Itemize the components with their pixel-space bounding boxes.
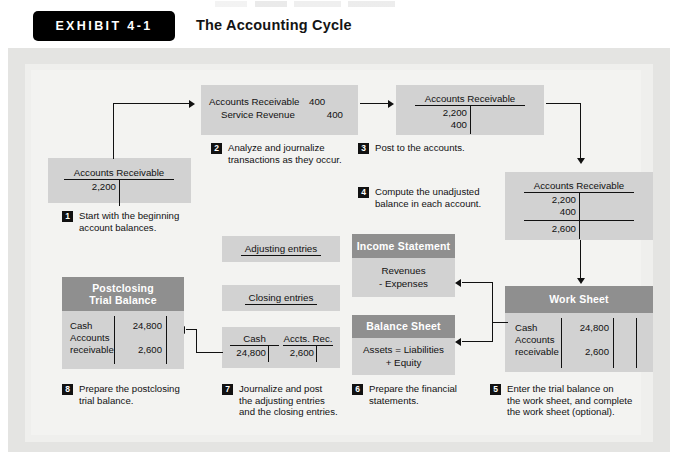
journal-debit-amount: 400 [309, 96, 343, 109]
connector-5-to-6-vertical [492, 282, 493, 342]
t-account-title: Accounts Receivable [524, 180, 634, 193]
work-sheet-row-1-name: Cash [515, 322, 537, 334]
t-account-title: Accounts Receivable [415, 93, 525, 106]
step-1: 1 Start with the beginning account balan… [62, 210, 222, 233]
t-account-title: Accts. Rec. [283, 333, 333, 346]
step-8-number: 8 [62, 384, 73, 395]
closing-entries-box: Closing entries [222, 285, 340, 311]
step-6-caption: Prepare the financial statements. [369, 383, 457, 406]
postclosing-rule-1 [114, 316, 115, 364]
step-3: 3 Post to the accounts. [358, 142, 518, 154]
closing-entries-label: Closing entries [245, 292, 318, 305]
income-statement-box: Income Statement Revenues - Expenses [352, 234, 455, 297]
journal-credit-account: Service Revenue [209, 109, 309, 122]
balance-sheet-header: Balance Sheet [352, 315, 455, 338]
t-account-title: Cash [230, 333, 279, 346]
t-account-balance: 2,600 [524, 221, 576, 235]
postclosing-trial-balance-box: Postclosing Trial Balance Cash 24,800 Ac… [62, 277, 184, 369]
postclosing-row-1-name: Cash [70, 320, 92, 332]
t-account-unadjusted: Accounts Receivable 2,200 400 2,600 [524, 180, 634, 239]
connector-7-to-8-horizontal [196, 352, 223, 353]
t-account-debit-1: 2,200 [415, 106, 467, 119]
step-7-number: 7 [222, 384, 233, 395]
postclosing-row-2-name: Accounts receivable [70, 332, 114, 355]
balance-sheet-body: Assets = Liabilities + Equity [352, 338, 455, 375]
postclosing-header: Postclosing Trial Balance [62, 277, 184, 311]
income-statement-body: Revenues - Expenses [352, 258, 455, 297]
work-sheet-row-2-name: Accounts receivable [515, 334, 559, 357]
step-5-caption: Enter the trial balance on the work shee… [507, 383, 632, 418]
arrowhead-4-to-5 [577, 278, 585, 284]
connector-3-to-4-vertical [580, 103, 581, 158]
step-1-caption: Start with the beginning account balance… [79, 210, 179, 233]
t-account-cash: Cash 24,800 [230, 333, 279, 362]
postclosing-row-1-amount: 24,800 [118, 320, 162, 332]
arrowhead-1-to-2 [189, 100, 195, 108]
connector-5-to-6-top [462, 282, 493, 283]
arrowhead-to-income-statement [455, 279, 461, 287]
journal-credit-amount: 400 [309, 109, 343, 122]
page-title: The Accounting Cycle [196, 17, 352, 33]
beginning-balance-box: Accounts Receivable 2,200 [48, 158, 191, 203]
step-2-caption: Analyze and journalize transactions as t… [228, 142, 342, 165]
t-account-debit-2: 400 [524, 206, 576, 218]
connector-7-to-8-vertical [196, 329, 197, 353]
step-4-caption: Compute the unadjusted balance in each a… [375, 186, 481, 209]
adjusting-entries-box: Adjusting entries [222, 236, 340, 262]
connector-worksheet-feed [492, 322, 508, 323]
step-1-number: 1 [62, 211, 73, 222]
connector-1-to-2-vertical [113, 103, 114, 159]
step-4-number: 4 [358, 187, 369, 198]
exhibit-tag-label: EXHIBIT 4-1 [55, 19, 152, 33]
connector-4-to-5 [580, 240, 581, 278]
t-account-debit-2: 400 [415, 119, 467, 131]
work-sheet-row-2-amount: 2,600 [565, 346, 609, 358]
work-sheet-header: Work Sheet [505, 286, 653, 313]
journal-credit-row: Service Revenue 400 [209, 109, 343, 122]
arrowhead-3-to-4 [577, 158, 585, 164]
step-3-caption: Post to the accounts. [375, 142, 465, 154]
step-3-number: 3 [358, 143, 369, 154]
exhibit-diagram: EXHIBIT 4-1 The Accounting Cycle Account… [0, 0, 678, 464]
step-5: 5 Enter the trial balance on the work sh… [490, 383, 665, 418]
t-account-beginning: Accounts Receivable 2,200 [64, 167, 174, 206]
step-2: 2 Analyze and journalize transactions as… [211, 142, 371, 165]
journal-debit-account: Accounts Receivable [209, 96, 309, 109]
connector-3-to-4-horizontal [546, 103, 581, 104]
work-sheet-row-1-amount: 24,800 [565, 322, 609, 334]
income-statement-header: Income Statement [352, 234, 455, 258]
journal-entry-box: Accounts Receivable 400 Service Revenue … [201, 85, 358, 135]
work-sheet-rule-1 [561, 318, 562, 368]
connector-5-to-6-bottom [462, 341, 493, 342]
posted-account-box: Accounts Receivable 2,200 400 [396, 85, 544, 135]
postclosing-row-2-amount: 2,600 [118, 344, 162, 356]
t-account-debit-1: 2,200 [524, 193, 576, 206]
t-account-debit: 2,200 [64, 180, 116, 193]
work-sheet-rule-2 [613, 318, 614, 368]
step-8-caption: Prepare the postclosing trial balance. [79, 383, 180, 406]
t-account-accts-rec: Accts. Rec. 2,600 [283, 333, 333, 362]
step-6: 6 Prepare the financial statements. [352, 383, 492, 406]
closing-t-accounts-box: Cash 24,800 Accts. Rec. 2,600 [222, 327, 340, 368]
page-text-fragment [215, 1, 395, 7]
adjusting-entries-label: Adjusting entries [241, 243, 321, 256]
balance-sheet-box: Balance Sheet Assets = Liabilities + Equ… [352, 315, 455, 375]
work-sheet-rule-3 [636, 318, 637, 368]
connector-7-to-8-top [186, 329, 197, 330]
exhibit-tag: EXHIBIT 4-1 [33, 11, 175, 41]
arrowhead-to-balance-sheet [455, 338, 461, 346]
journal-debit-row: Accounts Receivable 400 [209, 96, 343, 109]
unadjusted-balance-box: Accounts Receivable 2,200 400 2,600 [505, 172, 653, 240]
t-account-amount: 2,600 [283, 346, 314, 359]
arrowhead-2-to-3 [388, 100, 394, 108]
t-account-posted: Accounts Receivable 2,200 400 [415, 93, 525, 134]
postclosing-rule-2 [166, 316, 167, 364]
step-2-number: 2 [211, 143, 222, 154]
t-account-title: Accounts Receivable [64, 167, 174, 180]
step-4: 4 Compute the unadjusted balance in each… [358, 186, 508, 209]
step-8: 8 Prepare the postclosing trial balance. [62, 383, 212, 406]
step-7-caption: Journalize and post the adjusting entrie… [239, 383, 338, 418]
connector-2-to-3 [360, 103, 388, 104]
work-sheet-box: Work Sheet Cash 24,800 Accounts receivab… [505, 286, 653, 372]
t-account-amount: 24,800 [230, 346, 266, 359]
